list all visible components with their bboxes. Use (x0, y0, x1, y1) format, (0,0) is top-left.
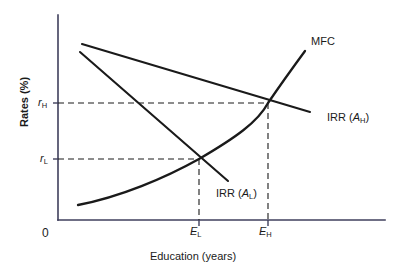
y-tick-label-rl: rL (40, 153, 48, 164)
y-tick-rl-sub: L (44, 157, 48, 166)
curve-irr-al (80, 52, 228, 181)
irr-ah-sub: H (360, 116, 365, 125)
x-tick-label-eh: EH (259, 226, 272, 237)
x-tick-el-sub: L (197, 230, 201, 239)
x-axis-title: Education (years) (58, 250, 328, 262)
curve-label-mfc: MFC (311, 36, 335, 47)
x-tick-label-el: EL (190, 226, 202, 237)
origin-label: 0 (42, 227, 49, 239)
irr-ah-var: A (353, 111, 360, 123)
irr-al-suffix: ) (253, 187, 257, 199)
irr-al-sub: L (249, 192, 253, 201)
curve-mfc (78, 51, 305, 205)
irr-al-prefix: IRR ( (216, 187, 242, 199)
curve-irr-ah (82, 44, 310, 112)
irr-ah-suffix: ) (365, 111, 369, 123)
y-tick-label-rh: rH (38, 97, 47, 108)
x-tick-eh-sub: H (266, 230, 271, 239)
economics-chart-figure: Rates (%) Education (years) 0 rH rL EL E… (0, 0, 398, 271)
irr-ah-prefix: IRR ( (327, 111, 353, 123)
y-tick-rh-sub: H (42, 101, 47, 110)
irr-al-var: A (242, 187, 249, 199)
curve-label-irr-al: IRR (AL) (216, 188, 257, 199)
curve-label-irr-ah: IRR (AH) (327, 112, 369, 123)
y-axis-title: Rates (%) (18, 62, 30, 142)
